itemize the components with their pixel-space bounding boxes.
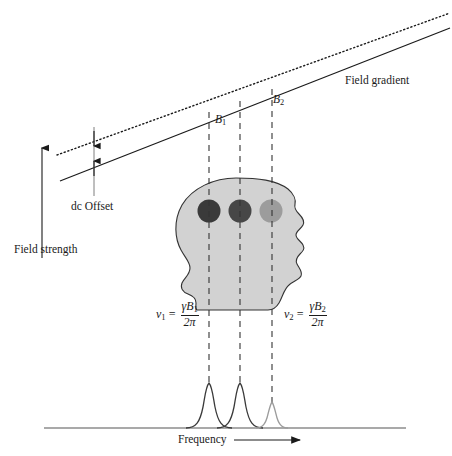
nu1-equals: = (169, 307, 176, 322)
nu2-num-subscript: 2 (321, 304, 325, 314)
nu2-fraction: γB2 2π (306, 300, 328, 330)
nu1-fraction: γB1 2π (178, 300, 200, 330)
b1-symbol: B (215, 113, 222, 125)
nu1-numerator: γB1 (178, 300, 200, 315)
nu2-numerator: γB2 (306, 300, 328, 315)
nu1-denominator: 2π (181, 315, 199, 329)
nu1-lhs: ν1 (156, 307, 166, 322)
spectrum-peak-3 (256, 402, 288, 428)
b2-symbol: B (273, 93, 280, 105)
dc-offset-label: dc Offset (71, 200, 113, 213)
b1-subscript: 1 (222, 118, 226, 127)
nu1-subscript: 1 (161, 312, 165, 322)
spectrum-peak-2 (217, 383, 263, 428)
figure-canvas (0, 0, 452, 456)
nmr-field-gradient-figure: Field gradient dc Offset Field strength … (0, 0, 452, 456)
field-strength-label: Field strength (14, 243, 78, 256)
spectrum-peak-1 (186, 383, 232, 428)
nu2-equals: = (297, 307, 304, 322)
nu2-denominator: 2π (309, 315, 327, 329)
imaged-region-3 (260, 200, 283, 223)
field-gradient-solid-line (60, 28, 450, 181)
nu2-subscript: 2 (289, 312, 293, 322)
field-gradient-label: Field gradient (345, 74, 409, 87)
nu1-num-subscript: 1 (193, 304, 197, 314)
field-point-b2-label: B2 (273, 93, 284, 107)
equation-nu1: ν1 = γB1 2π (156, 300, 201, 330)
nu2-num-text: γB (309, 299, 321, 313)
b2-subscript: 2 (280, 98, 284, 107)
frequency-label: Frequency (178, 433, 227, 446)
equation-nu2: ν2 = γB2 2π (284, 300, 329, 330)
nu2-lhs: ν2 (284, 307, 294, 322)
nu1-num-text: γB (181, 299, 193, 313)
field-point-b1-label: B1 (215, 113, 226, 127)
